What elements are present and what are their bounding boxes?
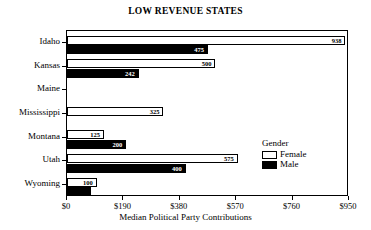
x-axis-tick-label: $570 bbox=[227, 201, 244, 211]
x-axis-tick bbox=[179, 196, 180, 200]
legend-label-male: Male bbox=[280, 160, 299, 169]
legend-label-female: Female bbox=[280, 150, 307, 159]
bar-value-label: 938 bbox=[332, 36, 342, 45]
bar-value-label: 325 bbox=[150, 107, 160, 116]
x-axis-tick bbox=[235, 196, 236, 200]
x-axis-tick-label: $380 bbox=[170, 201, 187, 211]
bar-value-label: 200 bbox=[113, 140, 123, 149]
x-axis-tick bbox=[122, 196, 123, 200]
y-axis-tick bbox=[62, 113, 66, 114]
y-axis-tick bbox=[62, 160, 66, 161]
legend-swatch-male-icon bbox=[262, 161, 277, 169]
x-axis-tick bbox=[292, 196, 293, 200]
bar-value-label: 575 bbox=[224, 154, 234, 163]
legend-swatch-female-icon bbox=[262, 151, 277, 159]
bar-kansas-female[interactable] bbox=[67, 59, 215, 68]
legend: Gender Female Male bbox=[262, 138, 307, 169]
x-axis-tick bbox=[348, 196, 349, 200]
x-axis-title: Median Political Party Contributions bbox=[0, 212, 371, 222]
y-axis-label-utah: Utah bbox=[0, 154, 60, 164]
plot-inner: 938475500242325125200575400100 bbox=[67, 31, 347, 195]
y-axis-tick bbox=[62, 89, 66, 90]
y-axis-label-maine: Maine bbox=[0, 83, 60, 93]
bar-utah-female[interactable] bbox=[67, 154, 238, 163]
legend-title: Gender bbox=[262, 138, 307, 148]
bar-wyoming-male[interactable] bbox=[67, 187, 91, 196]
bar-value-label: 500 bbox=[202, 59, 212, 68]
bar-value-label: 242 bbox=[125, 69, 135, 78]
y-axis-tick bbox=[62, 137, 66, 138]
bar-idaho-male[interactable] bbox=[67, 45, 208, 54]
bar-idaho-female[interactable] bbox=[67, 36, 345, 45]
x-axis-tick-label: $0 bbox=[62, 201, 71, 211]
x-axis-tick-label: $760 bbox=[283, 201, 300, 211]
bar-value-label: 475 bbox=[194, 45, 204, 54]
y-axis-tick bbox=[62, 184, 66, 185]
x-axis-tick bbox=[66, 196, 67, 200]
y-axis-label-wyoming: Wyoming bbox=[0, 178, 60, 188]
plot-area: 938475500242325125200575400100 bbox=[66, 30, 348, 196]
chart-title: LOW REVENUE STATES bbox=[0, 6, 371, 16]
y-axis-tick bbox=[62, 42, 66, 43]
legend-item-female: Female bbox=[262, 150, 307, 159]
y-axis-label-kansas: Kansas bbox=[0, 60, 60, 70]
bar-utah-male[interactable] bbox=[67, 164, 186, 173]
chart-root: LOW REVENUE STATES 938475500242325125200… bbox=[0, 0, 371, 230]
x-axis-tick-label: $950 bbox=[340, 201, 357, 211]
y-axis-tick bbox=[62, 66, 66, 67]
y-axis-label-montana: Montana bbox=[0, 131, 60, 141]
bar-value-label: 100 bbox=[83, 178, 93, 187]
y-axis-label-mississippi: Mississippi bbox=[0, 107, 60, 117]
bar-value-label: 400 bbox=[172, 164, 182, 173]
x-axis-tick-label: $190 bbox=[114, 201, 131, 211]
legend-item-male: Male bbox=[262, 160, 307, 169]
y-axis-label-idaho: Idaho bbox=[0, 36, 60, 46]
bar-value-label: 125 bbox=[90, 130, 100, 139]
